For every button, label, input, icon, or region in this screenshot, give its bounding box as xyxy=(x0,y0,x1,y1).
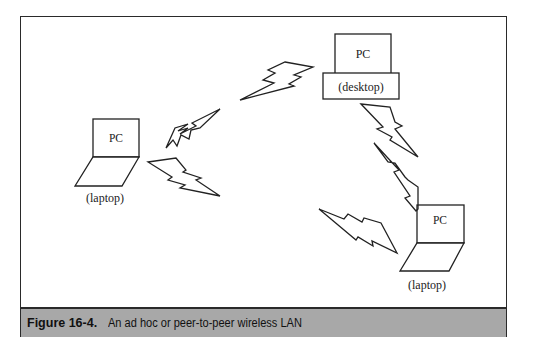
wireless-lan-diagram: PC (desktop) PC (laptop) PC (laptop) xyxy=(0,0,534,308)
desktop-screen-label: PC xyxy=(356,47,371,61)
figure-number: Figure 16-4. xyxy=(27,316,97,330)
lightning-bolt-icon xyxy=(361,104,418,157)
figure-caption: An ad hoc or peer-to-peer wireless LAN xyxy=(108,316,302,330)
figure-caption-bar: Figure 16-4. An ad hoc or peer-to-peer w… xyxy=(20,307,507,337)
laptop-left-keyboard xyxy=(75,157,139,186)
laptop-left-caption: (laptop) xyxy=(86,191,124,205)
laptop-right-caption: (laptop) xyxy=(408,278,446,292)
desktop-base-label: (desktop) xyxy=(338,80,383,94)
lightning-bolt-icon xyxy=(166,109,220,148)
laptop-left-screen-label: PC xyxy=(109,132,123,144)
lightning-bolt-icon xyxy=(319,209,397,253)
laptop-left xyxy=(75,119,139,186)
laptop-right-keyboard xyxy=(400,243,464,271)
laptop-right-screen-label: PC xyxy=(433,214,447,226)
lightning-bolt-icon xyxy=(148,158,220,196)
lightning-bolt-icon xyxy=(240,62,313,100)
